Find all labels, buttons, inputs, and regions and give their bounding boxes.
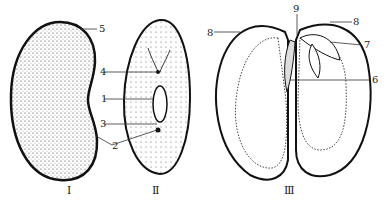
caption-panel-3: Ⅲ <box>284 184 295 197</box>
seed-hilum-view <box>124 20 190 174</box>
label-1: 1 <box>101 94 107 104</box>
seed-external-view <box>11 22 97 180</box>
label-2: 2 <box>112 141 118 151</box>
diagram-drawing <box>0 0 388 203</box>
seed-internal-view <box>216 25 370 180</box>
label-3: 3 <box>100 119 106 129</box>
label-6: 6 <box>372 75 378 85</box>
label-8-right: 8 <box>353 17 359 27</box>
label-7: 7 <box>364 40 370 50</box>
bean-seed-diagram: 5 4 1 3 2 8 8 9 7 6 Ⅰ Ⅱ Ⅲ <box>0 0 388 203</box>
caption-panel-2: Ⅱ <box>152 184 159 197</box>
label-9: 9 <box>293 4 299 14</box>
label-4: 4 <box>100 67 106 77</box>
label-8-left: 8 <box>207 28 213 38</box>
caption-panel-1: Ⅰ <box>67 184 71 197</box>
label-5: 5 <box>99 24 105 34</box>
